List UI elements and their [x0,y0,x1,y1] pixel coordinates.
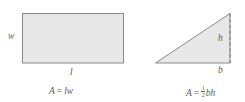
triangle-height-label: h [218,34,223,44]
rectangle-formula-expression: lw [64,86,73,96]
triangle-formula-equals: = [192,88,201,98]
triangle-area-formula: A=12bh [186,85,215,99]
triangle-formula-area-symbol: A [186,88,192,98]
rectangle-area-formula: A=lw [49,87,73,97]
rectangle-formula-area-symbol: A [49,86,55,96]
triangle-base-label: b [218,66,223,76]
area-formulas-figure: w l h b A=lw A=12bh [0,0,245,102]
rectangle-length-label: l [70,68,73,78]
rectangle-formula-equals: = [55,86,64,96]
triangle-formula-coefficient: 12 [201,85,205,99]
rectangle-width-label: w [8,32,14,42]
triangle-formula-expression: bh [206,88,216,98]
triangle-formula-coefficient-denominator: 2 [201,91,205,98]
rectangle-shape [23,14,124,64]
